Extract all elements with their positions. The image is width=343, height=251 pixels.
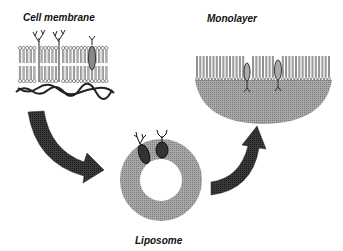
liposome-label: Liposome: [135, 235, 182, 246]
arrow-liposome-to-monolayer: [211, 126, 266, 195]
diagram-graphics: [0, 0, 343, 251]
diagram-canvas: Cell membrane Monolayer Liposome: [0, 0, 343, 251]
monolayer-lipids: [196, 56, 331, 80]
cell-membrane-label: Cell membrane: [23, 12, 95, 23]
monolayer-support: [195, 80, 332, 124]
monolayer-label: Monolayer: [207, 13, 257, 24]
arrow-membrane-to-liposome: [28, 111, 104, 183]
cytoskeleton-filaments: [16, 84, 114, 99]
